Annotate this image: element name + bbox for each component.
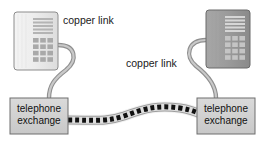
telephone-exchange-left: telephone exchange (10, 98, 68, 134)
telephone-exchange-left-line1: telephone (17, 103, 61, 114)
telephone-exchange-right: telephone exchange (197, 98, 255, 134)
telephone-exchange-left-line2: exchange (17, 115, 61, 126)
label-copper-link-right: copper link (126, 57, 178, 69)
telephone-exchange-right-line2: exchange (204, 115, 248, 126)
optical-link (68, 107, 207, 120)
telephone-left (14, 12, 58, 70)
network-diagram: telephone exchange telephone exchange co… (0, 0, 266, 148)
diagram-canvas: telephone exchange telephone exchange co… (0, 0, 266, 148)
label-copper-link-left: copper link (63, 14, 115, 26)
telephone-right (206, 10, 250, 68)
telephone-exchange-right-line1: telephone (204, 103, 248, 114)
